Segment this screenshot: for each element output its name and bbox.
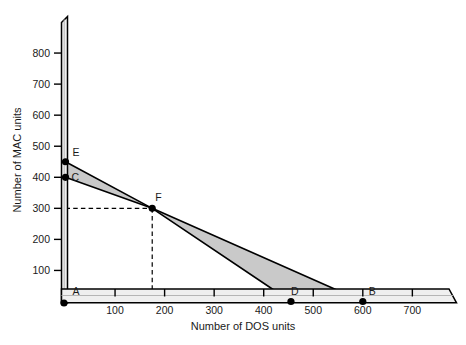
data-point-marker-f [149, 205, 156, 212]
data-point-label-d: D [291, 285, 299, 297]
x-axis-tick-label: 200 [156, 304, 174, 316]
y-axis-tick-label: 700 [32, 78, 50, 90]
y-axis: 100200300400500600700800 [32, 17, 67, 304]
data-point-label-a: A [73, 285, 80, 297]
y-axis-tick-labels: 100200300400500600700800 [32, 47, 50, 276]
data-point-label-b: B [369, 285, 376, 297]
ppf-chart-svg: 100200300400500600700800 100200300400500… [0, 0, 466, 345]
shaded-regions [66, 162, 363, 302]
data-point-marker-d [287, 298, 294, 305]
data-point-labels: ECAFDB [72, 146, 376, 297]
y-axis-tick-label: 200 [32, 233, 50, 245]
y-axis-ticks [54, 53, 62, 270]
data-point-label-c: C [72, 171, 80, 183]
data-point-marker-c [62, 174, 69, 181]
x-axis-tick-label: 500 [304, 304, 322, 316]
y-axis-tick-label: 400 [32, 171, 50, 183]
x-axis-tick-label: 400 [255, 304, 273, 316]
data-point-marker-e [62, 158, 69, 165]
data-point-label-f: F [155, 191, 161, 203]
y-axis-tick-label: 600 [32, 109, 50, 121]
x-axis-tick-label: 300 [205, 304, 223, 316]
y-axis-title: Number of MAC units [11, 107, 23, 213]
origin-marker [60, 299, 67, 306]
chart-figure: 100200300400500600700800 100200300400500… [0, 0, 466, 345]
x-axis-tick-label: 600 [354, 304, 372, 316]
frontier-lines [66, 162, 363, 302]
data-point-marker-b [359, 298, 366, 305]
x-axis-tick-label: 700 [404, 304, 422, 316]
y-axis-tick-label: 500 [32, 140, 50, 152]
x-axis: 100200300400500600700 [62, 289, 457, 316]
y-axis-tick-label: 800 [32, 47, 50, 59]
x-axis-tick-label: 100 [106, 304, 124, 316]
x-axis-title: Number of DOS units [191, 320, 296, 332]
x-axis-tick-labels: 100200300400500600700 [106, 304, 421, 316]
data-point-label-e: E [73, 146, 80, 158]
y-axis-tick-label: 300 [32, 202, 50, 214]
y-axis-tick-label: 100 [32, 264, 50, 276]
